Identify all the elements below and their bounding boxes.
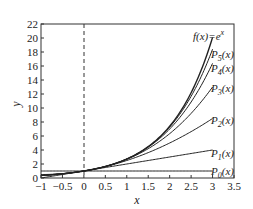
x-tick-label: 1	[124, 180, 130, 192]
y-tick-label: 2	[33, 158, 39, 170]
curves	[41, 37, 213, 178]
y-tick-label: 4	[33, 144, 39, 156]
y-tick-label: 8	[33, 116, 39, 128]
label-p1x: P1(x)	[210, 147, 234, 162]
x-axis-label: x	[133, 193, 140, 207]
y-tick-label: 10	[27, 102, 39, 114]
label-p3x: P3(x)	[210, 82, 234, 97]
taylor-polynomial-chart: −1−0.500.511.522.533.5 02468101214161820…	[0, 0, 253, 209]
y-tick-label: 16	[27, 60, 39, 72]
y-axis-label: y	[9, 101, 23, 108]
y-tick-label: 22	[27, 18, 38, 30]
x-tick-label: 1.5	[141, 180, 155, 192]
curve-fxex	[41, 37, 213, 175]
y-tick-label: 18	[27, 46, 39, 58]
y-tick-label: 20	[27, 32, 39, 44]
x-tick-label: 3	[210, 180, 216, 192]
x-tick-label: 2	[167, 180, 173, 192]
x-tick-label: −0.5	[52, 180, 72, 192]
x-tick-label: 2.5	[184, 180, 198, 192]
x-tick-label: 3.5	[227, 180, 241, 192]
y-tick-label: 12	[27, 88, 38, 100]
label-fxex: f(x)=ex	[193, 28, 225, 43]
x-tick-label: 0	[81, 180, 87, 192]
y-tick-label: 6	[33, 130, 39, 142]
curve-p4x	[41, 63, 213, 175]
curve-p1x	[41, 150, 213, 178]
curve-p5x	[41, 49, 213, 175]
curve-p2x	[41, 119, 213, 175]
y-tick-label: 14	[27, 74, 39, 86]
label-p5x: P5(x)	[210, 48, 234, 63]
x-tick-label: 0.5	[98, 180, 112, 192]
label-p4x: P4(x)	[210, 62, 234, 77]
label-p2x: P2(x)	[210, 114, 234, 129]
y-tick-label: 0	[33, 172, 39, 184]
